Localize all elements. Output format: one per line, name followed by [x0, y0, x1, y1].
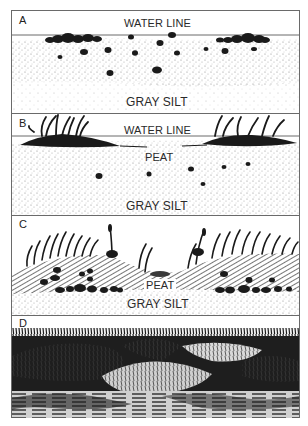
- panel-b: B WATER LINE PEAT GRAY SILT: [12, 113, 299, 216]
- panel-label: B: [19, 117, 26, 129]
- panel-label: D: [19, 317, 27, 329]
- panel-label: A: [19, 14, 26, 26]
- diagram-frame: A WATER LINE GRAY SILT: [11, 10, 300, 418]
- panel-d-illustration: [12, 316, 299, 418]
- gray-silt-label: GRAY SILT: [127, 297, 189, 311]
- peat-label: PEAT: [144, 279, 176, 291]
- panel-a: A WATER LINE GRAY SILT: [12, 11, 299, 113]
- peat-label: PEAT: [145, 151, 173, 163]
- panel-label: C: [19, 218, 27, 230]
- water-line-label: WATER LINE: [124, 124, 191, 136]
- gray-silt-label: GRAY SILT: [126, 199, 188, 213]
- panel-c: C PEAT GRAY SILT: [12, 215, 299, 316]
- panel-d: D: [12, 315, 299, 418]
- water-line-label: WATER LINE: [124, 17, 191, 29]
- gray-silt-label: GRAY SILT: [126, 95, 188, 109]
